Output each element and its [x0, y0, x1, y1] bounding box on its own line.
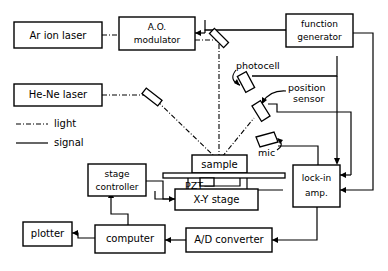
he-ne-laser-label: He-Ne laser: [29, 89, 88, 100]
arrowhead-lockin-right-2: [340, 172, 346, 178]
mirror-hene-icon: [142, 88, 162, 106]
beam-hene-mirror-to-sample: [157, 101, 215, 157]
position-sensor-icon: [252, 101, 270, 122]
photoacoustic-setup-diagram: Ar ion laser A.O. modulator function gen…: [0, 0, 388, 271]
stage-controller-label-line2: controller: [96, 182, 139, 192]
box-ao-modulator[interactable]: A.O. modulator: [119, 17, 195, 50]
position-sensor-label-line2: sensor: [293, 93, 325, 104]
legend-light-label: light: [54, 118, 76, 129]
xy-stage-label: X-Y stage: [194, 194, 240, 205]
box-function-generator[interactable]: function generator: [286, 14, 353, 47]
arrowhead-lockin-top: [334, 158, 340, 165]
photocell-icon: [237, 72, 254, 93]
stage-controller-label-line1: stage: [105, 169, 130, 179]
arrowhead-adc-right: [272, 237, 278, 243]
box-plotter[interactable]: plotter: [23, 222, 72, 246]
box-ad-converter[interactable]: A/D converter: [186, 228, 272, 252]
arrowhead-lockin-right: [340, 187, 346, 193]
wire-stagecontroller-to-xystage: [146, 181, 175, 199]
wire-computer-to-stagecontroller: [111, 196, 128, 225]
mic-icon: [256, 132, 278, 147]
box-ar-ion-laser[interactable]: Ar ion laser: [14, 22, 102, 48]
beam-sample-to-position-sensor: [222, 118, 254, 157]
sample-label: sample: [201, 159, 237, 170]
stage-plate: [163, 173, 285, 178]
computer-label: computer: [106, 233, 155, 244]
legend-item-light: light: [16, 118, 76, 129]
mic-label: mic: [258, 147, 275, 158]
mirror-hene-rect: [142, 88, 162, 106]
box-lock-in-amp[interactable]: lock-in amp.: [293, 165, 340, 207]
ar-ion-laser-label: Ar ion laser: [30, 30, 88, 41]
stage-plate-rect: [163, 173, 285, 178]
box-stage-controller[interactable]: stage controller: [88, 164, 146, 196]
lock-in-amp-label-line1: lock-in: [302, 173, 332, 183]
wire-funcgen-to-ao-top: [205, 20, 286, 30]
legend-item-signal: signal: [16, 137, 84, 148]
legend: light signal: [16, 118, 84, 148]
box-computer[interactable]: computer: [95, 225, 165, 253]
lock-in-amp-label-line2: amp.: [305, 188, 328, 198]
box-xy-stage[interactable]: X-Y stage: [175, 189, 258, 210]
position-sensor-label-line1: position: [288, 82, 326, 93]
pzt-label: PZT: [185, 180, 203, 191]
label-position-sensor: position sensor: [262, 82, 326, 105]
box-he-ne-laser[interactable]: He-Ne laser: [14, 84, 102, 106]
mic-shape: [256, 132, 278, 147]
diagram-canvas: Ar ion laser A.O. modulator function gen…: [0, 0, 388, 271]
arrowhead-computer-right: [165, 237, 171, 243]
photocell-rect: [237, 72, 254, 93]
arrowhead-plotter: [72, 230, 78, 236]
box-sample[interactable]: sample: [192, 155, 247, 173]
legend-signal-label: signal: [54, 137, 84, 148]
position-sensor-rect: [252, 101, 270, 122]
lock-in-amp-rect: [293, 165, 340, 207]
light-beam-group: [102, 35, 254, 157]
label-pzt: PZT: [185, 180, 203, 191]
plotter-label: plotter: [31, 228, 65, 239]
arrowhead-ao-modulator: [195, 30, 201, 36]
function-generator-label-line1: function: [301, 19, 338, 29]
ao-modulator-label-line1: A.O.: [148, 22, 166, 32]
ad-converter-label: A/D converter: [194, 234, 264, 245]
photocell-label: photocell: [236, 60, 280, 71]
ao-modulator-label-line2: modulator: [134, 35, 181, 45]
wire-lockin-to-adc: [272, 207, 317, 240]
function-generator-label-line2: generator: [297, 32, 342, 42]
